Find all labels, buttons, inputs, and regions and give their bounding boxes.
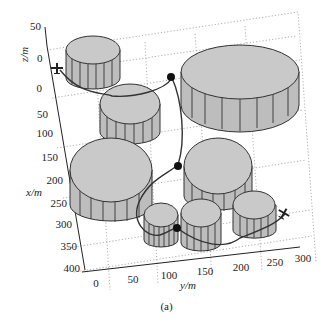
y-tick: 100	[161, 269, 178, 281]
x-tick: 50	[37, 108, 49, 120]
x-tick: 100	[37, 127, 54, 139]
cylinder-top-left	[66, 36, 120, 89]
end-aircraft-icon	[276, 206, 292, 222]
cylinder-mid-left	[100, 84, 160, 144]
z-tick-50: 50	[30, 20, 42, 32]
x-tick: 350	[61, 240, 78, 252]
3d-plot: 50 0 z/m 0 50 100 150 200 250 300 350 40…	[0, 0, 333, 326]
y-tick: 0	[93, 277, 99, 289]
x-tick: 150	[42, 151, 59, 163]
y-tick: 150	[197, 265, 214, 277]
x-axis-label: x/m	[25, 186, 42, 198]
cylinder-large-right	[181, 45, 299, 132]
x-tick: 300	[56, 218, 73, 230]
cylinder-medium-front	[181, 199, 221, 251]
figure-caption: (a)	[0, 300, 333, 312]
z-axis-ticks: 50 0 z/m	[18, 20, 43, 64]
x-tick: 0	[37, 82, 43, 94]
y-tick: 50	[128, 273, 140, 285]
waypoint-2	[174, 162, 182, 170]
x-tick: 400	[64, 262, 81, 274]
waypoint-3	[173, 224, 181, 232]
cylinder-large-left	[70, 138, 152, 222]
z-axis-label: z/m	[18, 47, 30, 63]
cylinder-right-front	[233, 191, 276, 238]
z-tick-0: 0	[37, 52, 43, 64]
y-axis-label: y/m	[179, 279, 196, 291]
x-tick: 250	[51, 197, 68, 209]
y-tick: 200	[233, 261, 250, 273]
waypoint-1	[167, 73, 175, 81]
x-tick: 200	[47, 174, 64, 186]
y-tick: 250	[267, 256, 284, 268]
y-tick: 300	[295, 252, 312, 264]
cylinder-small-front	[144, 203, 178, 247]
